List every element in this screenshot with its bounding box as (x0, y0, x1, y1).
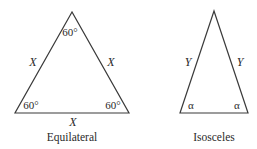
equilateral-left-side-label: X (28, 55, 37, 69)
equilateral-right-angle: 60° (105, 99, 120, 111)
equilateral-left-angle: 60° (23, 99, 38, 111)
equilateral-caption: Equilateral (47, 131, 97, 144)
equilateral-right-side-label: X (106, 55, 115, 69)
equilateral-apex-angle: 60° (62, 26, 77, 38)
isosceles-left-angle: α (188, 99, 194, 111)
isosceles-right-angle: α (234, 99, 240, 111)
equilateral-triangle: 60° 60° 60° X X X Equilateral (15, 12, 129, 144)
equilateral-base-label: X (68, 115, 77, 129)
isosceles-right-side-label: Y (237, 55, 245, 69)
isosceles-left-side-label: Y (185, 55, 193, 69)
triangle-diagram: 60° 60° 60° X X X Equilateral α α Y Y Is… (0, 0, 257, 149)
isosceles-triangle: α α Y Y Isosceles (180, 11, 248, 143)
isosceles-caption: Isosceles (193, 131, 235, 143)
